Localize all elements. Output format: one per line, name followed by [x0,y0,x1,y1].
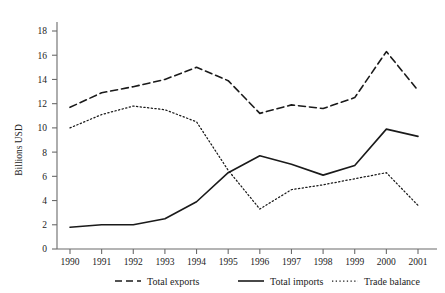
x-tick-label: 1991 [92,257,111,267]
x-tick-label: 1997 [282,257,301,267]
x-tick-label: 1992 [124,257,143,267]
chart-container: 024681012141618 199019911992199319941995… [0,0,445,293]
y-tick-label: 14 [38,75,48,85]
series-line-total-exports [70,52,418,114]
legend-label-total-exports: Total exports [147,276,199,287]
y-tick-label: 12 [38,99,48,109]
y-axis-tick-labels: 024681012141618 [38,26,48,254]
x-tick-label: 2001 [409,257,428,267]
x-tick-label: 1999 [345,257,364,267]
chart-legend: Total exportsTotal importsTrade balance [115,276,421,287]
y-tick-label: 6 [42,172,47,182]
x-tick-label: 1995 [219,257,238,267]
y-tick-label: 10 [38,123,48,133]
trade-line-chart: 024681012141618 199019911992199319941995… [0,0,445,293]
y-axis: 024681012141618 [38,22,58,254]
legend-label-total-imports: Total imports [270,276,324,287]
y-axis-ticks [52,31,57,249]
y-tick-label: 8 [42,148,47,158]
x-tick-label: 1990 [61,257,80,267]
series-line-trade-balance [70,106,418,209]
x-tick-label: 1996 [250,257,269,267]
series-line-total-imports [70,129,418,227]
x-tick-label: 1993 [155,257,174,267]
y-tick-label: 2 [42,220,47,230]
series-lines [70,52,418,228]
x-axis-tick-labels: 1990199119921993199419951996199719981999… [61,257,428,267]
x-tick-label: 2000 [377,257,396,267]
x-axis: 1990199119921993199419951996199719981999… [57,249,437,267]
x-tick-label: 1994 [187,257,206,267]
y-tick-label: 18 [38,26,48,36]
y-tick-label: 0 [42,244,47,254]
legend-label-trade-balance: Trade balance [364,276,421,287]
y-axis-title: Billions USD [14,124,24,176]
x-tick-label: 1998 [314,257,333,267]
y-tick-label: 16 [38,51,48,61]
x-axis-ticks [70,249,418,254]
y-tick-label: 4 [42,196,47,206]
